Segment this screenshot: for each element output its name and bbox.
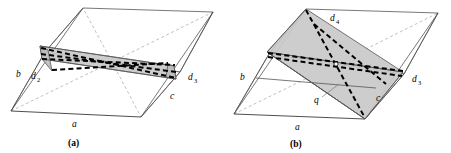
panel-a-diagram: b d 2 d 3 c a (a) (0, 0, 226, 153)
panel-a-label-d2-base: d (31, 71, 36, 81)
panel-b-label-q: q (314, 95, 319, 105)
panel-a-label-d2-sub: 2 (37, 76, 40, 83)
panel-a-label-d3: d 3 (188, 72, 197, 84)
panel-a-label-d3-sub: 3 (194, 77, 197, 84)
panel-b-label-d4-base: d (330, 13, 335, 23)
panel-a-label-d3-base: d (188, 72, 193, 82)
panel-a-caption: (a) (68, 138, 79, 149)
panel-b-label-d3-sub: 3 (418, 79, 421, 86)
panel-b-label-a: a (295, 122, 300, 132)
panel-a-label-a: a (72, 119, 77, 129)
panel-b-caption: (b) (290, 139, 302, 150)
panel-b-label-d3: d 3 (412, 74, 421, 86)
panel-b-diagram: b d 4 d 3 q c a (b) (226, 0, 451, 153)
panel-a-label-c: c (170, 91, 175, 101)
panel-b-label-d4: d 4 (330, 13, 340, 25)
panel-b-label-d4-sub: 4 (336, 18, 340, 25)
panel-a-label-b: b (16, 69, 21, 79)
panel-b-label-b: b (240, 72, 245, 82)
panel-b-label-d3-base: d (412, 74, 417, 84)
panel-b-center-point (334, 62, 338, 66)
panel-a-label-d2: d 2 (31, 71, 40, 83)
figure-root: b d 2 d 3 c a (a) (0, 0, 451, 153)
